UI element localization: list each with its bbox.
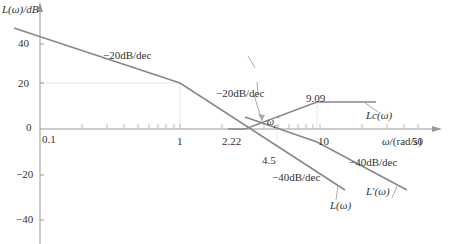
slope-label-top: −20dB/dec [103, 50, 151, 61]
x-tick-0.1: 0.1 [42, 134, 56, 145]
y-tick-40: 40 [18, 38, 29, 49]
y-tick-neg20: −20 [16, 169, 33, 180]
slope-label-mid: −20dB/dec [216, 88, 264, 99]
y-tick-neg40: −40 [16, 214, 33, 225]
bode-plot [0, 0, 468, 244]
slope-label-Lp: −40dB/dec [349, 157, 397, 168]
y-tick-20: 20 [18, 78, 29, 89]
leader-L [336, 186, 338, 200]
curve-label-Lc: Lc(ω) [366, 110, 392, 121]
freq-label-45: 4.5 [262, 155, 276, 166]
curve-Lc [228, 102, 376, 129]
x-tick-2.22: 2.22 [222, 136, 241, 147]
y-tick-0: 0 [26, 122, 32, 133]
x-tick-1: 1 [177, 136, 183, 147]
crossover-label: ωc′ [267, 116, 279, 130]
curve-label-Lp: L'(ω) [366, 186, 390, 197]
leader-Lp [392, 184, 398, 198]
x-axis-arrow-icon [432, 126, 442, 132]
x-tick-10: 10 [318, 136, 329, 147]
y-axis-label: L(ω)/dB [2, 4, 39, 15]
curve-label-L: L(ω) [330, 200, 351, 211]
x-tick-50: 50 [412, 136, 423, 147]
freq-label-909: 9.09 [306, 93, 325, 104]
arrow-icon [258, 114, 265, 121]
slope-label-L: −40dB/dec [272, 172, 320, 183]
